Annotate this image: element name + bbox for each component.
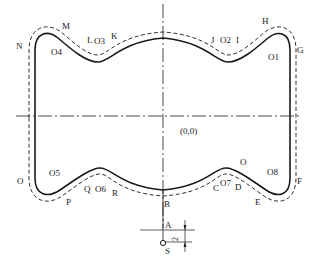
label-Q: Q (84, 184, 91, 194)
label-O-right: O (240, 157, 247, 167)
label-G: G (297, 45, 304, 55)
label-O2: O2 (220, 35, 231, 45)
contour-diagram: 2 (0,0) A S B C D E F G H I J K L M N O … (0, 0, 320, 267)
label-D: D (235, 182, 242, 192)
dimension-arrow-bottom-icon (184, 242, 187, 247)
label-O6: O6 (95, 184, 106, 194)
label-H: H (262, 16, 269, 26)
dimension-arrow-top-icon (184, 225, 187, 230)
label-M: M (62, 21, 70, 31)
label-P: P (66, 197, 71, 207)
label-O1: O1 (268, 52, 279, 62)
label-O-left: O (17, 176, 24, 186)
start-point-marker-icon (160, 240, 165, 245)
label-R: R (112, 188, 118, 198)
label-E: E (255, 197, 261, 207)
label-L: L (87, 35, 93, 45)
part-contour (35, 34, 290, 195)
label-S: S (165, 246, 170, 256)
label-O4: O4 (51, 47, 62, 57)
tool-path-offset (29, 27, 296, 201)
label-B: B (164, 199, 170, 209)
label-O5: O5 (49, 168, 60, 178)
label-O7: O7 (220, 178, 231, 188)
label-I: I (236, 35, 239, 45)
label-O3: O3 (94, 36, 105, 46)
dimension-value: 2 (171, 237, 180, 241)
origin-label: (0,0) (180, 126, 197, 136)
label-C: C (213, 183, 219, 193)
label-J: J (211, 35, 215, 45)
label-A: A (165, 220, 172, 230)
label-K: K (111, 31, 118, 41)
label-F: F (297, 176, 302, 186)
label-N: N (16, 41, 23, 51)
label-O8: O8 (267, 167, 278, 177)
